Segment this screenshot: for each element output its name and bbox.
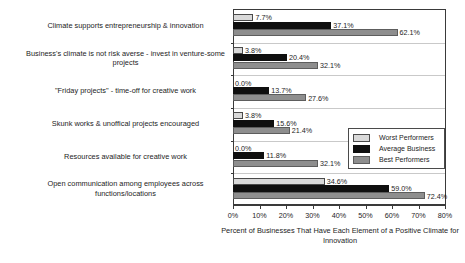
bar-value-label: 37.1% — [333, 22, 353, 29]
group-separator — [234, 43, 445, 44]
category-label: Resources available for creative work — [18, 152, 233, 161]
bar-value-label: 0.0% — [235, 145, 251, 152]
x-axis-tick-label: 20% — [271, 211, 301, 220]
legend-item-best: Best Performers — [353, 154, 440, 165]
bar-value-label: 72.4% — [427, 193, 447, 200]
bar-worst — [233, 47, 243, 54]
bar-best — [233, 192, 425, 199]
y-axis-tick — [231, 43, 234, 44]
bar-avg — [233, 22, 331, 29]
group-separator — [234, 173, 445, 174]
legend-swatch-worst-icon — [353, 134, 370, 142]
bar-avg — [233, 185, 389, 192]
category-label: Open communication among employees acros… — [18, 179, 233, 198]
bar-avg — [233, 87, 269, 94]
y-axis-tick — [231, 108, 234, 109]
bar-value-label: 13.7% — [271, 87, 291, 94]
bar-worst — [233, 14, 253, 21]
legend-swatch-best-icon — [353, 156, 370, 164]
bar-value-label: 11.8% — [266, 152, 286, 159]
bar-best — [233, 127, 290, 134]
category-label: "Friday projects" - time-off for creativ… — [18, 86, 233, 95]
bar-avg — [233, 152, 264, 159]
y-axis-tick — [231, 75, 234, 76]
legend-swatch-average-icon — [353, 145, 370, 153]
x-axis-tick — [260, 205, 261, 209]
x-axis-tick — [286, 205, 287, 209]
bar-worst — [233, 112, 243, 119]
x-axis-tick — [419, 205, 420, 209]
x-axis-tick-label: 30% — [298, 211, 328, 220]
x-axis-tick — [233, 205, 234, 209]
legend-label-worst: Worst Performers — [379, 134, 434, 141]
bar-value-label: 34.6% — [327, 178, 347, 185]
x-axis-tick-label: 10% — [245, 211, 275, 220]
group-separator — [234, 108, 445, 109]
x-axis-tick — [392, 205, 393, 209]
bar-best — [233, 29, 398, 36]
bar-value-label: 3.8% — [245, 112, 261, 119]
chart-legend: Worst Performers Average Business Best P… — [348, 128, 445, 169]
y-axis-tick — [231, 141, 234, 142]
x-axis-tick-label: 60% — [377, 211, 407, 220]
x-axis-tick-label: 70% — [404, 211, 434, 220]
bar-value-label: 32.1% — [320, 160, 340, 167]
bar-value-label: 59.0% — [391, 185, 411, 192]
bar-best — [233, 160, 318, 167]
plot-area — [233, 9, 446, 205]
legend-item-worst: Worst Performers — [353, 132, 440, 143]
bar-best — [233, 94, 306, 101]
bar-value-label: 62.1% — [400, 29, 420, 36]
bar-avg — [233, 120, 274, 127]
bar-value-label: 0.0% — [235, 80, 251, 87]
bar-worst — [233, 178, 325, 185]
bar-value-label: 27.6% — [308, 95, 328, 102]
x-axis-title: Percent of Businesses That Have Each Ele… — [218, 226, 462, 245]
x-axis-tick-label: 0% — [218, 211, 248, 220]
category-label: Business's climate is not risk averse - … — [18, 49, 233, 68]
bar-value-label: 3.8% — [245, 47, 261, 54]
x-axis-tick — [313, 205, 314, 209]
bar-avg — [233, 54, 287, 61]
y-axis-tick — [231, 173, 234, 174]
category-label: Skunk works & unoffical projects encoura… — [18, 119, 233, 128]
group-separator — [234, 75, 445, 76]
x-axis-tick-label: 80% — [430, 211, 460, 220]
x-axis-tick — [339, 205, 340, 209]
bar-best — [233, 62, 318, 69]
legend-label-average: Average Business — [379, 145, 435, 152]
legend-item-average: Average Business — [353, 143, 440, 154]
bar-value-label: 21.4% — [292, 127, 312, 134]
x-axis-tick — [366, 205, 367, 209]
bar-value-label: 32.1% — [320, 62, 340, 69]
category-label: Climate supports entrepreneurship & inno… — [18, 21, 233, 30]
x-axis-tick-label: 50% — [351, 211, 381, 220]
legend-label-best: Best Performers — [379, 156, 430, 163]
bar-value-label: 7.7% — [255, 14, 271, 21]
x-axis-tick-label: 40% — [324, 211, 354, 220]
innovation-climate-bar-chart: Climate supports entrepreneurship & inno… — [0, 0, 465, 263]
bar-value-label: 20.4% — [289, 54, 309, 61]
x-axis-tick — [445, 205, 446, 209]
